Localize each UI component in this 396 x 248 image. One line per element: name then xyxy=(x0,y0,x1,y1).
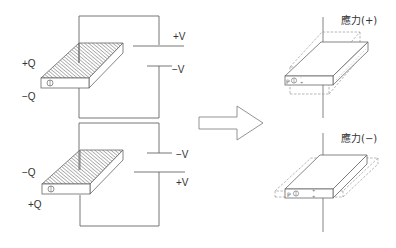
stress-label-positive: 應力(+) xyxy=(341,14,377,26)
voltage-label-top: +V xyxy=(173,31,186,42)
crystal-block: P + + xyxy=(285,155,367,199)
svg-text:P: P xyxy=(287,191,291,198)
svg-text:+: + xyxy=(312,194,315,199)
stress-label-negative: 應力(−) xyxy=(341,132,377,144)
piezoelectric-diagram: +Q −Q +V −V −Q +Q −V +V xyxy=(0,0,396,248)
bottom-circuit: −Q +Q −V +V xyxy=(22,123,189,226)
crystal-block: P - + xyxy=(285,42,368,85)
svg-text:P: P xyxy=(286,78,290,85)
top-circuit: +Q −Q +V −V xyxy=(22,16,186,118)
stress-positive-figure: P - + 應力(+) xyxy=(285,14,377,118)
crystal-block-top xyxy=(41,43,123,88)
charge-label-top: +Q xyxy=(22,58,36,69)
right-arrow-icon xyxy=(199,106,263,140)
svg-text:+: + xyxy=(300,80,303,85)
voltage-label-bottom: +V xyxy=(176,177,189,188)
charge-label-bottom: +Q xyxy=(28,199,42,210)
crystal-block-bottom xyxy=(42,150,123,194)
charge-label-bottom: −Q xyxy=(22,91,36,102)
charge-label-top: −Q xyxy=(22,167,36,178)
stress-negative-figure: P + + 應力(−) xyxy=(275,132,378,232)
svg-text:+: + xyxy=(312,188,315,193)
voltage-label-bottom: −V xyxy=(172,64,185,75)
voltage-label-top: −V xyxy=(176,149,189,160)
